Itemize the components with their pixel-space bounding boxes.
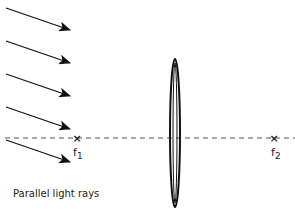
focal-marker-f1-icon: × — [72, 132, 81, 145]
parallel-rays — [6, 8, 70, 162]
focal-label-f2: f2 — [271, 146, 281, 161]
focal-label-f1: f1 — [73, 146, 83, 161]
lens-diagram: × f1 × f2 Parallel light rays — [0, 0, 295, 209]
light-ray-arrow-icon — [6, 41, 70, 63]
focal-point-f2: × f2 — [269, 132, 280, 161]
convex-lens — [170, 59, 180, 207]
light-ray-arrow-icon — [6, 8, 70, 30]
light-ray-arrow-icon — [6, 140, 70, 162]
diagram-caption: Parallel light rays — [13, 188, 99, 199]
focal-point-f1: × f1 — [72, 132, 82, 161]
light-ray-arrow-icon — [6, 74, 70, 96]
focal-marker-f2-icon: × — [269, 132, 278, 145]
light-ray-arrow-icon — [6, 107, 70, 129]
